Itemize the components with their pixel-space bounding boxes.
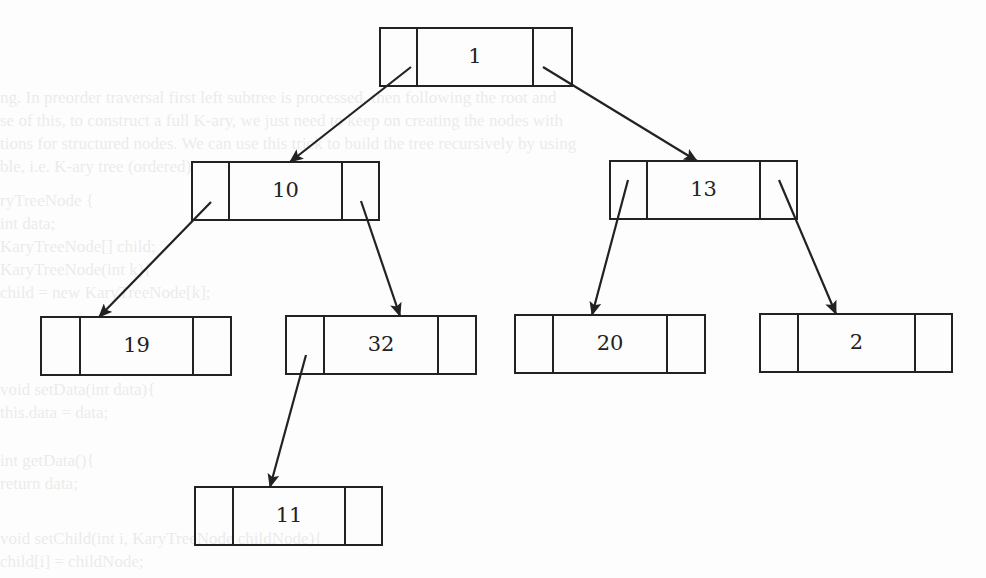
tree-diagram (0, 0, 986, 578)
node-value-10: 10 (229, 180, 342, 201)
edge-arrow-n13-to-n2 (779, 180, 836, 314)
node-value-11: 11 (233, 505, 345, 526)
tree-edges (99, 67, 836, 487)
node-value-20: 20 (553, 333, 667, 354)
edge-arrow-n1-to-n13 (543, 67, 697, 161)
node-value-1: 1 (417, 46, 533, 67)
edge-arrow-n10-to-n32 (361, 201, 400, 316)
node-value-2: 2 (798, 332, 915, 353)
tree-diagram-canvas: ng. In preorder traversal first left sub… (0, 0, 986, 578)
node-value-32: 32 (324, 334, 438, 355)
tree-nodes (41, 28, 952, 545)
node-value-13: 13 (647, 179, 760, 200)
node-value-19: 19 (80, 335, 193, 356)
edge-arrow-n1-to-n10 (290, 67, 411, 162)
